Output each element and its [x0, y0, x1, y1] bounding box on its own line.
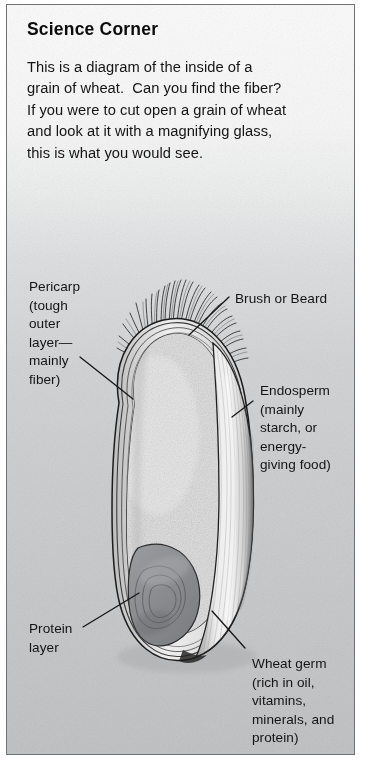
intro-paragraph: This is a diagram of the inside of a gra…	[27, 57, 286, 164]
label-protein-layer: Protein layer	[29, 620, 72, 657]
content-frame: Science Corner This is a diagram of the …	[6, 4, 355, 755]
label-wheat-germ: Wheat germ (rich in oil, vitamins, miner…	[252, 655, 334, 748]
page-root: Science Corner This is a diagram of the …	[0, 0, 375, 772]
label-brush-or-beard: Brush or Beard	[235, 290, 327, 309]
page-title: Science Corner	[27, 19, 158, 40]
label-pericarp: Pericarp (tough outer layer— mainly fibe…	[29, 278, 80, 390]
label-endosperm: Endosperm (mainly starch, or energy- giv…	[260, 382, 331, 475]
